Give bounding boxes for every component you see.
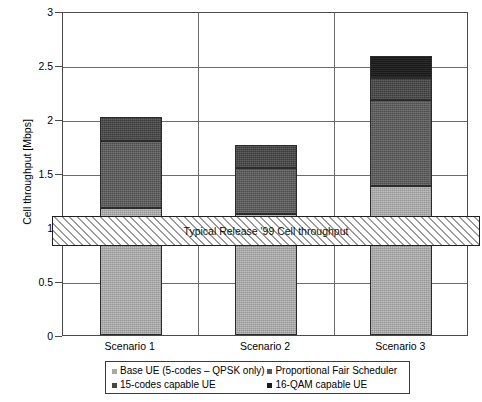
y-axis-tick-mark (55, 12, 62, 13)
legend-swatch-icon (112, 383, 117, 388)
legend-item-16-qam-capable-ue: 16-QAM capable UE (267, 380, 403, 390)
plot-area: Typical Release '99 Cell throughput (62, 12, 468, 336)
legend-label-base-ue: Base UE (5-codes – QPSK only) (120, 366, 265, 376)
x-axis-tick-label: Scenario 1 (62, 340, 197, 352)
bar-segment (235, 168, 297, 214)
legend-swatch-icon (267, 369, 272, 374)
y-axis-tick-label: 0.5 (7, 277, 53, 288)
x-axis-tick-label: Scenario 2 (197, 340, 332, 352)
bar-segment (235, 145, 297, 168)
y-axis-tick-label: 2 (7, 115, 53, 126)
y-axis-tick-label: 1.5 (7, 169, 53, 180)
legend-label-proportional-fair-scheduler: Proportional Fair Scheduler (275, 366, 397, 376)
bar-group (235, 11, 297, 335)
y-axis-tick-mark (55, 282, 62, 283)
y-axis-tick-label: 0 (7, 331, 53, 342)
legend-row-2: 15-codes capable UE 16-QAM capable UE (112, 378, 403, 392)
y-axis-tick-mark (55, 336, 62, 337)
y-axis-tick-label: 3 (7, 7, 53, 18)
category-separator (198, 13, 199, 335)
y-axis-tick-mark (55, 66, 62, 67)
legend-row-1: Base UE (5-codes – QPSK only) Proportion… (112, 364, 403, 378)
release99-band: Typical Release '99 Cell throughput (52, 216, 480, 246)
legend-item-15-codes-capable-ue: 15-codes capable UE (112, 380, 267, 390)
y-axis-tick-mark (55, 174, 62, 175)
release99-band-label: Typical Release '99 Cell throughput (181, 225, 352, 237)
category-separator (334, 13, 335, 335)
bar-segment (370, 56, 432, 78)
bar-segment (370, 78, 432, 100)
legend-item-base-ue: Base UE (5-codes – QPSK only) (112, 366, 267, 376)
legend-label-15-codes-capable-ue: 15-codes capable UE (120, 380, 216, 390)
legend-item-proportional-fair-scheduler: Proportional Fair Scheduler (267, 366, 403, 376)
bar-group (100, 11, 162, 335)
chart-figure: Cell throughput [Mbps] 00.511.522.53 Typ… (0, 0, 482, 402)
legend-swatch-icon (267, 383, 272, 388)
chart-legend: Base UE (5-codes – QPSK only) Proportion… (105, 361, 410, 394)
legend-label-16-qam-capable-ue: 16-QAM capable UE (275, 380, 367, 390)
y-axis-tick-container: 00.511.522.53 (0, 0, 53, 402)
bar-segment (100, 141, 162, 208)
bar-segment (370, 100, 432, 186)
y-axis-tick-mark (55, 120, 62, 121)
bar-segment (100, 117, 162, 141)
bar-segment (370, 186, 432, 335)
legend-swatch-icon (112, 369, 117, 374)
bar-group (370, 11, 432, 335)
x-axis-tick-label: Scenario 3 (333, 340, 468, 352)
y-axis-tick-label: 2.5 (7, 61, 53, 72)
y-axis-tick-label: 1 (7, 223, 53, 234)
